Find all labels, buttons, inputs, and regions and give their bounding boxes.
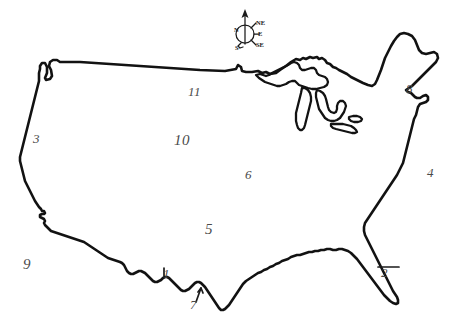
label-9: 9 [23,257,31,272]
label-11: 11 [188,85,201,98]
compass-label-east: E [258,31,262,38]
label-10: 10 [174,133,190,148]
us-national-border-path [20,33,438,310]
compass-label-south: S [235,45,239,52]
lake-huron-outline [316,90,346,121]
label-5: 5 [205,222,213,237]
lake-ontario-outline [349,116,362,122]
compass-label-northeast: NE [256,20,265,27]
label-6: 6 [245,168,252,181]
lake-superior-outline [256,62,328,89]
label-8: 8 [406,82,413,95]
label-1: 1 [163,267,170,280]
us-outline-map-page: N NE E SE S 1110653984271 [0,0,456,327]
label-7: 7 [190,298,197,311]
label-3: 3 [33,132,40,145]
lake-michigan-outline [296,88,311,130]
label-2: 2 [381,266,388,279]
lake-erie-outline [331,124,357,133]
compass-label-southeast: SE [256,42,264,49]
label-4: 4 [427,166,434,179]
compass-label-north: N [234,27,239,34]
label-pointers [164,267,399,302]
